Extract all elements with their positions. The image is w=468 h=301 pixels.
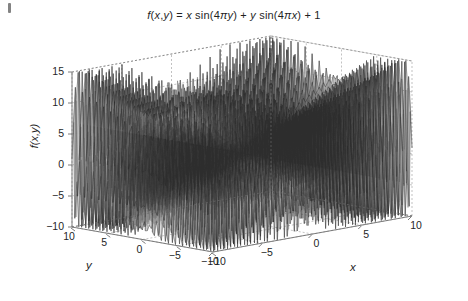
x-tick-0: −10 [202,255,232,267]
z-tick-3: 0 [36,158,64,170]
z-tick-1: 10 [36,96,64,108]
z-tick-2: 5 [36,127,64,139]
y-tick-3: −5 [160,249,190,261]
mesh-surface [72,37,412,251]
surface-plot-canvas [0,0,468,301]
z-tick-4: −5 [36,189,64,201]
x-tick-2: 0 [302,237,332,249]
x-axis-label: x [350,261,356,273]
z-tick-0: 15 [36,65,64,77]
y-tick-2: 0 [125,243,155,255]
y-tick-0: 10 [54,230,84,242]
y-axis-label: y [86,259,92,271]
x-tick-1: −5 [252,246,282,258]
x-tick-3: 5 [351,228,381,240]
y-tick-1: 5 [89,236,119,248]
x-tick-4: 10 [401,219,431,231]
